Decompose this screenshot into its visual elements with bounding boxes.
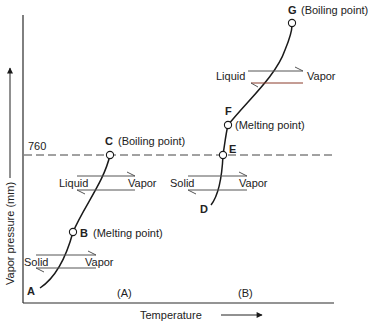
vapor-pressure-diagram: Vapor pressure (mm) Temperature 760 Soli… — [0, 0, 370, 324]
point-f-desc: (Melting point) — [235, 119, 305, 131]
point-g-label: G — [288, 4, 297, 16]
label-solid: Solid — [170, 177, 194, 189]
point-c-label: C — [105, 135, 113, 147]
point-g-desc: (Boiling point) — [301, 4, 368, 16]
label-vapor: Vapor — [128, 177, 157, 189]
x-axis-title: Temperature — [140, 309, 262, 321]
label-liquid: Liquid — [216, 70, 245, 82]
label-vapor: Vapor — [307, 70, 336, 82]
equilibrium-liquid-vapor-a: Liquid Vapor — [59, 172, 157, 194]
equilibrium-liquid-vapor-b: Liquid Vapor — [216, 67, 336, 87]
point-c-desc: (Boiling point) — [118, 135, 185, 147]
x-axis-label: Temperature — [140, 309, 202, 321]
tick-760: 760 — [28, 140, 46, 152]
label-liquid: Liquid — [59, 177, 88, 189]
label-vapor: Vapor — [239, 177, 268, 189]
equilibrium-solid-vapor-b: Solid Vapor — [170, 172, 268, 194]
panel-a-caption: (A) — [117, 287, 132, 299]
point-d-label: D — [200, 203, 208, 215]
panel-b-caption: (B) — [238, 287, 253, 299]
y-axis-label: Vapor pressure (mm) — [4, 182, 16, 285]
point-b-label: B — [80, 227, 88, 239]
point-a-label: A — [27, 285, 35, 297]
point-b-desc: (Melting point) — [93, 227, 163, 239]
y-axis-title: Vapor pressure (mm) — [4, 68, 16, 285]
point-g-marker — [288, 19, 295, 26]
panel-a: Solid Vapor Liquid Vapor A B (Melting po… — [24, 135, 185, 299]
label-vapor: Vapor — [85, 256, 114, 268]
equilibrium-solid-vapor-a: Solid Vapor — [24, 251, 114, 272]
panel-b: Solid Vapor Liquid Vapor D E F (Melting … — [170, 4, 368, 299]
point-b-marker — [69, 228, 76, 235]
point-f-label: F — [225, 105, 232, 117]
label-solid: Solid — [24, 256, 48, 268]
point-c-marker — [106, 151, 113, 158]
point-f-marker — [224, 121, 231, 128]
point-e-label: E — [229, 143, 236, 155]
point-e-marker — [219, 151, 226, 158]
